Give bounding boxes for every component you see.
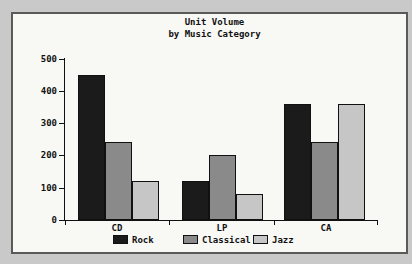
x-category-label: LP: [197, 223, 247, 233]
bar-rock-lp: [182, 181, 209, 220]
bar-classical-ca: [311, 142, 338, 220]
x-axis-tick: [274, 221, 275, 225]
legend-label-classical: Classical: [202, 235, 251, 245]
bar-classical-lp: [209, 155, 236, 220]
bar-jazz-lp: [236, 194, 263, 220]
legend-label-rock: Rock: [132, 235, 154, 245]
y-axis-tick: [59, 123, 64, 124]
legend-swatch-classical: [183, 235, 198, 244]
legend-label-jazz: Jazz: [272, 235, 294, 245]
x-axis-line: [64, 220, 378, 221]
bar-jazz-cd: [132, 181, 159, 220]
y-axis-tick-label: 0: [26, 215, 57, 225]
bar-jazz-ca: [338, 104, 365, 220]
y-axis-tick-label: 200: [26, 150, 57, 160]
chart-title-line1: Unit Volume: [16, 16, 412, 28]
bar-rock-cd: [78, 75, 105, 220]
x-category-label: CA: [301, 223, 351, 233]
y-axis-tick-label: 400: [26, 86, 57, 96]
y-axis-tick-label: 100: [26, 183, 57, 193]
legend-swatch-jazz: [253, 235, 268, 244]
x-axis-tick: [377, 221, 378, 225]
y-axis-tick-label: 300: [26, 118, 57, 128]
chart-title: Unit Volume by Music Category: [16, 16, 412, 40]
legend-swatch-rock: [113, 235, 128, 244]
y-axis-tick: [59, 91, 64, 92]
chart-canvas: Unit Volume by Music Category 0100200300…: [0, 0, 412, 264]
x-axis-tick: [65, 221, 66, 225]
bar-classical-cd: [105, 142, 132, 220]
x-axis-tick: [169, 221, 170, 225]
y-axis-tick: [59, 188, 64, 189]
y-axis-tick: [59, 155, 64, 156]
y-axis-line: [64, 58, 65, 221]
bar-rock-ca: [284, 104, 311, 220]
x-category-label: CD: [92, 223, 142, 233]
chart-title-line2: by Music Category: [16, 28, 412, 40]
y-axis-tick: [59, 59, 64, 60]
y-axis-tick-label: 500: [26, 54, 57, 64]
y-axis-tick: [59, 220, 64, 221]
